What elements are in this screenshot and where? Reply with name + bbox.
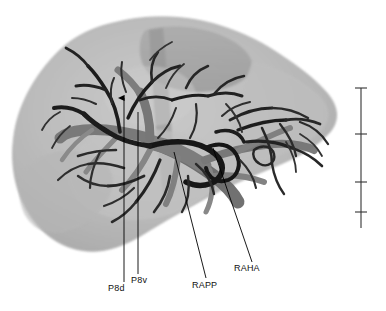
liver-vascular-rendering: P8d P8v RAPP RAHA <box>0 0 386 311</box>
figure-canvas: P8d P8v RAPP RAHA <box>0 0 386 311</box>
label-rapp: RAPP <box>192 280 217 290</box>
label-p8d: P8d <box>108 283 125 293</box>
label-p8v: P8v <box>131 275 147 285</box>
label-raha: RAHA <box>234 263 260 273</box>
